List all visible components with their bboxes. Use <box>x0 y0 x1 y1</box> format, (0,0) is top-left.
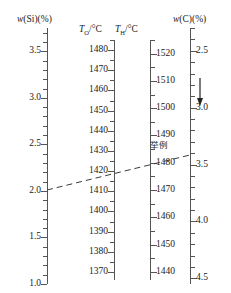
axis-tick-label: 1480 <box>156 158 175 168</box>
axis-tick-label: 3.5 <box>196 160 208 170</box>
axis-tick <box>43 163 47 164</box>
axis-tick <box>191 210 195 211</box>
axis-tick-label: 1400 <box>89 206 108 216</box>
axis-spine-c <box>190 28 191 284</box>
axis-tick-label: 2.5 <box>196 46 208 56</box>
axis-tick <box>151 95 155 96</box>
axis-tick <box>191 130 195 131</box>
nomogram-chart: w(Si)(%) TO/°C TH/°C w(C)(%) 3.53.02.52.… <box>0 0 231 293</box>
axis-tick <box>43 219 47 220</box>
axis-tick-label: 1390 <box>89 227 108 237</box>
axis-title-th: TH/°C <box>115 24 138 36</box>
axis-tick <box>108 171 114 172</box>
axis-title-to: TO/°C <box>79 24 102 36</box>
axis-tick <box>43 182 47 183</box>
axis-tick <box>108 272 114 273</box>
axis-tick <box>108 232 114 233</box>
axis-tick-label: 2.0 <box>29 186 41 196</box>
example-label: 举例 <box>150 138 168 150</box>
axis-tick-label: 1.0 <box>29 279 41 289</box>
axis-tick <box>43 126 47 127</box>
axis-tick <box>108 90 114 91</box>
axis-tick <box>151 258 155 259</box>
axis-spine-th <box>150 40 151 280</box>
axis-tick-label: 4.5 <box>196 273 208 283</box>
axis-tick-label: 1410 <box>89 186 108 196</box>
axis-tick <box>151 231 155 232</box>
axis-tick-label: 1450 <box>156 240 175 250</box>
axis-tick <box>110 181 114 182</box>
axis-tick <box>43 33 47 34</box>
axis-tick <box>191 96 195 97</box>
axis-tick <box>41 144 47 145</box>
axis-tick <box>43 116 47 117</box>
axis-tick-label: 1470 <box>156 185 175 195</box>
axis-tick-label: 3.5 <box>29 46 41 56</box>
axis-tick <box>108 211 114 212</box>
axis-tick <box>191 153 195 154</box>
axis-tick <box>110 40 114 41</box>
axis-tick <box>43 200 47 201</box>
axis-tick <box>108 191 114 192</box>
axis-title-c: w(C)(%) <box>173 14 206 24</box>
axis-tick-label: 3.0 <box>29 93 41 103</box>
axis-tick <box>43 256 47 257</box>
axis-tick <box>41 284 47 285</box>
axis-tick <box>151 67 155 68</box>
axis-tick <box>43 42 47 43</box>
axis-tick-label: 1440 <box>89 126 108 136</box>
axis-title-c-rest: (C)(%) <box>179 14 206 24</box>
axis-tick <box>191 199 195 200</box>
axis-tick <box>108 252 114 253</box>
axis-tick <box>110 161 114 162</box>
axis-title-si-rest: (Si)(%) <box>23 14 52 24</box>
axis-tick-label: 1460 <box>156 212 175 222</box>
axis-tick <box>110 262 114 263</box>
axis-tick-label: 3.0 <box>196 103 208 113</box>
axis-tick-label: 1.5 <box>29 232 41 242</box>
axis-tick <box>191 62 195 63</box>
axis-tick <box>108 151 114 152</box>
axis-tick <box>191 267 195 268</box>
axis-title-to-unit: /°C <box>89 24 102 34</box>
axis-tick <box>43 79 47 80</box>
axis-tick <box>191 244 195 245</box>
axis-tick <box>43 107 47 108</box>
axis-tick <box>43 265 47 266</box>
axis-title-th-unit: /°C <box>125 24 138 34</box>
axis-tick <box>191 233 195 234</box>
axis-tick <box>108 111 114 112</box>
axis-tick <box>43 154 47 155</box>
axis-spine-to <box>114 40 115 280</box>
axis-tick <box>191 256 195 257</box>
axis-tick <box>43 275 47 276</box>
axis-tick <box>108 50 114 51</box>
axis-tick <box>43 89 47 90</box>
axis-tick <box>41 191 47 192</box>
axis-tick-label: 1450 <box>89 106 108 116</box>
axis-tick <box>110 80 114 81</box>
axis-tick <box>41 237 47 238</box>
axis-tick <box>110 101 114 102</box>
axis-tick <box>43 172 47 173</box>
axis-tick <box>191 176 195 177</box>
axis-tick-label: 1480 <box>89 45 108 55</box>
axis-tick <box>43 70 47 71</box>
axis-tick <box>110 242 114 243</box>
axis-tick <box>191 85 195 86</box>
axis-tick <box>43 135 47 136</box>
axis-spine-si <box>47 28 48 284</box>
axis-tick-label: 1440 <box>156 267 175 277</box>
axis-tick-label: 1520 <box>156 49 175 59</box>
axis-tick <box>191 142 195 143</box>
axis-tick <box>41 98 47 99</box>
axis-tick-label: 1470 <box>89 65 108 75</box>
axis-tick <box>43 61 47 62</box>
axis-tick-label: 1430 <box>89 146 108 156</box>
axis-tick <box>151 176 155 177</box>
axis-tick <box>191 119 195 120</box>
axis-tick <box>110 222 114 223</box>
axis-tick <box>151 204 155 205</box>
axis-tick <box>110 60 114 61</box>
axis-tick-label: 1420 <box>89 166 108 176</box>
